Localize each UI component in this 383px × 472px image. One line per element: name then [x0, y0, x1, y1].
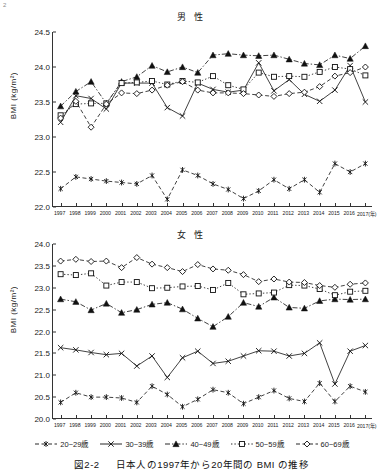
y-axis-tick-mark — [53, 67, 56, 68]
legend-item-4[interactable]: 50~59歳 — [230, 438, 284, 449]
x-axis-tick-mark — [61, 415, 62, 418]
x-axis-tick-mark — [106, 415, 107, 418]
legend-item-3[interactable]: 40~49歳 — [164, 438, 218, 449]
x-axis-tick-label: 1998 — [69, 210, 80, 216]
legend-item-label: 30~39歳 — [125, 438, 153, 449]
y-axis-tick-mark — [53, 419, 56, 420]
series-1 — [59, 380, 368, 409]
x-axis-tick-mark — [167, 415, 168, 418]
x-axis-tick-label: 2004 — [161, 422, 172, 428]
legend-item-2[interactable]: 30~39歳 — [99, 438, 153, 449]
x-axis-tick-label: 2005 — [176, 422, 187, 428]
x-axis-tick-mark — [259, 415, 260, 418]
x-axis-tick-label: 2008 — [222, 422, 233, 428]
x-axis-tick-label: 2014 — [313, 422, 324, 428]
x-axis-tick-label: 1997 — [54, 210, 65, 216]
x-axis-tick-label: 2012 — [283, 210, 294, 216]
y-axis-tick-label: 24.5 — [34, 28, 53, 37]
legend-marker-diamond-open-icon — [295, 439, 319, 449]
y-axis-tick-mark — [53, 287, 56, 288]
legend-marker-cross-icon — [99, 439, 123, 449]
x-axis-tick-mark — [228, 415, 229, 418]
x-axis-tick-mark — [152, 415, 153, 418]
y-axis-tick-mark — [53, 309, 56, 310]
y-axis-tick-label: 21.5 — [34, 349, 53, 358]
x-axis-tick-label: 1999 — [85, 210, 96, 216]
y-axis-tick-mark — [53, 397, 56, 398]
x-axis-tick-mark — [243, 415, 244, 418]
figure-caption: 図2-2 日本人の1997年から20年間の BMI の推移 — [0, 457, 383, 471]
x-axis-tick-mark — [106, 203, 107, 206]
x-axis-tick-label: 2005 — [176, 210, 187, 216]
x-axis-tick-mark — [365, 415, 366, 418]
x-axis-tick-mark — [350, 203, 351, 206]
series-layer-male — [53, 32, 373, 207]
plot-area-female: 20.020.521.021.522.022.523.023.524.0 — [52, 244, 372, 419]
x-axis-tick-mark — [320, 415, 321, 418]
x-axis-tick-label: 2001 — [115, 422, 126, 428]
plot-area-male: 22.022.523.023.524.024.5 — [52, 32, 372, 207]
y-axis-tick-mark — [53, 244, 56, 245]
legend-item-5[interactable]: 60~69歳 — [295, 438, 349, 449]
x-axis-tick-label: 2013 — [298, 422, 309, 428]
x-axis-tick-mark — [350, 415, 351, 418]
x-axis-tick-mark — [76, 415, 77, 418]
series-2 — [58, 340, 368, 387]
y-axis-tick-mark — [53, 172, 56, 173]
legend-item-1[interactable]: 20~29歳 — [34, 438, 88, 449]
x-axis-tick-label: 2016 — [344, 210, 355, 216]
x-axis-tick-label: 2014 — [313, 210, 324, 216]
x-axis-tick-label: 2011 — [268, 210, 279, 216]
y-axis-tick-mark — [53, 207, 56, 208]
y-axis-tick-mark — [53, 265, 56, 266]
legend-marker-asterisk-icon — [34, 439, 58, 449]
y-axis-tick-label: 21.0 — [34, 371, 53, 380]
x-axis-tick-mark — [152, 203, 153, 206]
x-axis-tick-label: 2008 — [222, 210, 233, 216]
figure-caption-text: 日本人の1997年から20年間の BMI の推移 — [116, 459, 309, 470]
x-axis-tick-label: 2000 — [100, 210, 111, 216]
y-axis-label-female: BMI (kg/m²) — [9, 286, 18, 333]
x-axis-tick-mark — [289, 203, 290, 206]
y-axis-tick-label: 22.5 — [34, 168, 53, 177]
x-axis-tick-label: 2007 — [206, 422, 217, 428]
y-axis-tick-label: 22.0 — [34, 327, 53, 336]
y-axis-tick-label: 24.0 — [34, 63, 53, 72]
x-axis-tick-label: 2002 — [130, 210, 141, 216]
y-axis-tick-label: 24.0 — [34, 240, 53, 249]
x-axis-tick-mark — [274, 415, 275, 418]
x-axis-tick-mark — [243, 203, 244, 206]
x-axis-tick-mark — [320, 203, 321, 206]
y-axis-tick-mark — [53, 32, 56, 33]
x-axis-tick-mark — [137, 415, 138, 418]
x-axis-tick-label: 2001 — [115, 210, 126, 216]
x-axis-tick-label: 2015 — [328, 422, 339, 428]
legend-marker-triangle-filled-icon — [164, 439, 188, 449]
x-axis-tick-label: 2015 — [328, 210, 339, 216]
x-axis-tick-mark — [335, 203, 336, 206]
x-axis-tick-mark — [213, 203, 214, 206]
x-axis-tick-mark — [365, 203, 366, 206]
y-axis-tick-mark — [53, 375, 56, 376]
corner-mark: 2 — [3, 2, 6, 8]
y-axis-tick-mark — [53, 353, 56, 354]
x-axis-tick-mark — [183, 415, 184, 418]
chart-title-female: 女 性 — [0, 228, 383, 241]
series-3 — [58, 294, 369, 329]
x-axis-tick-label: 2003 — [145, 422, 156, 428]
x-axis-tick-label: 1999 — [85, 422, 96, 428]
x-axis-tick-label: 2006 — [191, 210, 202, 216]
x-axis-tick-mark — [76, 203, 77, 206]
x-axis-tick-label: 2009 — [237, 422, 248, 428]
x-axis-tick-label: 2002 — [130, 422, 141, 428]
x-axis-tick-label: 2016 — [344, 422, 355, 428]
x-axis-tick-mark — [91, 415, 92, 418]
legend-item-label: 20~29歳 — [60, 438, 88, 449]
chart-title-male: 男 性 — [0, 10, 383, 23]
x-axis-tick-mark — [274, 203, 275, 206]
x-axis-tick-label: 2010 — [252, 210, 263, 216]
x-axis-tick-label: 2003 — [145, 210, 156, 216]
x-axis-tick-mark — [122, 415, 123, 418]
x-axis-tick-label: 2009 — [237, 210, 248, 216]
legend-item-label: 40~49歳 — [190, 438, 218, 449]
